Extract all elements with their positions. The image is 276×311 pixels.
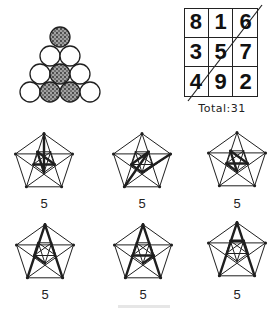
magic-square-cell: 4 — [184, 67, 209, 97]
magic-square-cell: 9 — [209, 67, 234, 97]
magic-square-cell: 1 — [209, 8, 234, 38]
pentagon-figure — [113, 223, 173, 279]
plain-coin — [70, 64, 90, 84]
magic-square-cell: 8 — [184, 8, 209, 38]
pentagon-count-label: 5 — [138, 197, 145, 210]
plain-coin — [40, 46, 60, 66]
shaded-coin — [60, 82, 80, 102]
pentagon-figure — [207, 131, 267, 187]
magic-square-total-label: Total:31 — [198, 102, 245, 115]
magic-square-cell: 6 — [233, 8, 258, 38]
pentagon-count-label: 5 — [40, 197, 47, 210]
cropped-caption-fragment — [118, 305, 170, 308]
pentagon-count-label: 5 — [139, 288, 146, 301]
shaded-coin — [40, 82, 60, 102]
shaded-coin — [50, 27, 70, 47]
shaded-coin — [50, 64, 70, 84]
plain-coin — [30, 64, 50, 84]
coin-triangle — [20, 27, 100, 102]
magic-square-cell: 3 — [184, 38, 209, 68]
plain-coin — [80, 82, 100, 102]
magic-square-cell: 2 — [233, 67, 258, 97]
magic-square-cell: 5 — [209, 38, 234, 68]
pentagon-count-label: 5 — [233, 197, 240, 210]
pentagon-count-label: 5 — [233, 288, 240, 301]
pentagon-figure — [207, 221, 267, 277]
pentagon-figure — [15, 223, 75, 279]
magic-square-cell: 7 — [233, 38, 258, 68]
pentagon-figure — [112, 132, 172, 188]
pentagon-count-label: 5 — [41, 288, 48, 301]
pentagon-figure — [14, 132, 74, 188]
plain-coin — [20, 82, 40, 102]
plain-coin — [60, 46, 80, 66]
